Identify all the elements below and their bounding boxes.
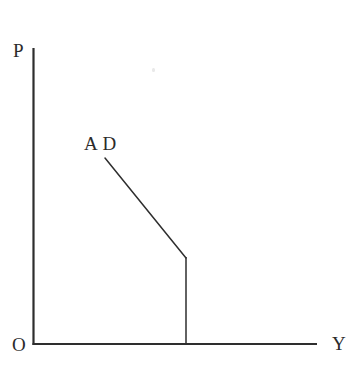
chart-canvas: [0, 0, 355, 367]
y-axis-label: P: [13, 41, 24, 60]
scan-artifact-speck: [152, 68, 155, 72]
origin-label: O: [12, 335, 26, 354]
ad-curve-label: A D: [84, 134, 117, 153]
ad-curve-figure: P O Y A D: [0, 0, 355, 367]
x-axis-label: Y: [332, 334, 346, 353]
ad-curve-sloped-segment: [105, 158, 186, 258]
